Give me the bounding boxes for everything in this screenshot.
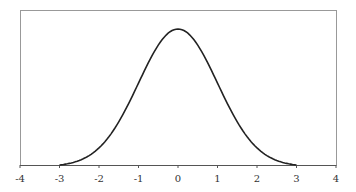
x-tick-label: 4 [333, 173, 339, 184]
x-tick-label: -4 [15, 173, 25, 184]
x-tick-label: -2 [94, 173, 104, 184]
normal-distribution-curve [60, 29, 297, 165]
normal-curve-chart: -4-3-2-101234 [0, 0, 356, 192]
x-tick-label: 1 [214, 173, 220, 184]
x-tick-label: -3 [55, 173, 65, 184]
x-tick-label: 2 [254, 173, 260, 184]
x-tick-label: 0 [175, 173, 181, 184]
x-tick-label: -1 [134, 173, 144, 184]
x-tick-label: 3 [293, 173, 299, 184]
plot-frame [21, 11, 337, 166]
x-axis-tick-labels: -4-3-2-101234 [15, 173, 339, 184]
